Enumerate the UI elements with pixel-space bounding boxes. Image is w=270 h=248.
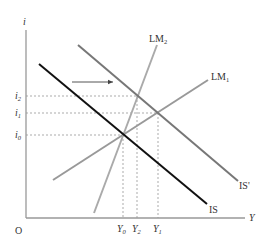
- y-axis-label: i: [23, 16, 26, 27]
- label-y0-sub: 0: [123, 228, 127, 235]
- label-i2: i2: [15, 90, 22, 102]
- label-lm1: LM1: [211, 71, 229, 83]
- label-is: IS: [209, 204, 218, 215]
- curve-lm2: [94, 45, 157, 213]
- label-i1-sub: 1: [18, 112, 21, 119]
- label-lm1-main: LM: [211, 71, 226, 82]
- label-y0: Y0: [117, 223, 127, 235]
- label-i2-sub: 2: [18, 95, 22, 102]
- x-axis-label: Y: [249, 212, 256, 223]
- label-y2-sub: 2: [138, 228, 142, 235]
- label-lm2: LM2: [149, 33, 167, 45]
- guide-lines: [26, 96, 158, 218]
- label-lm1-sub: 1: [226, 76, 229, 83]
- label-y2: Y2: [132, 223, 142, 235]
- origin-label: O: [15, 225, 22, 236]
- label-y1: Y1: [153, 223, 162, 235]
- label-is-prime: IS': [239, 180, 250, 191]
- is-lm-diagram: i Y O LM2 LM1 IS' IS i2 i1 i0 Y0 Y2 Y1: [0, 0, 270, 248]
- label-i0-sub: 0: [18, 134, 22, 141]
- label-lm2-main: LM: [149, 33, 164, 44]
- label-i0: i0: [15, 129, 22, 141]
- label-i1: i1: [15, 107, 21, 119]
- label-y1-sub: 1: [159, 228, 162, 235]
- label-lm2-sub: 2: [164, 38, 167, 45]
